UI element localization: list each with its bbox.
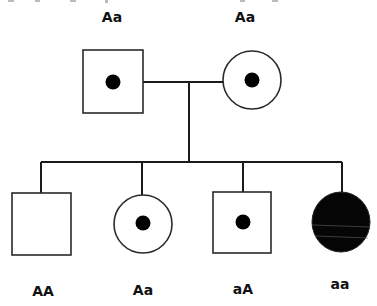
child4-genotype-label: aa: [331, 276, 350, 292]
carrier-dot-icon: [106, 75, 121, 90]
child3-genotype-label: aA: [233, 281, 253, 297]
carrier-dot-icon: [236, 215, 251, 230]
father-symbol: [83, 50, 143, 113]
child4-symbol: [312, 192, 370, 252]
child1-genotype-label: AA: [32, 283, 54, 299]
child2-symbol: [114, 195, 172, 253]
affected-female-circle-icon: [312, 192, 370, 252]
carrier-dot-icon: [136, 216, 151, 231]
male-square-icon: [12, 193, 71, 255]
top-cutoff-text: [8, 0, 278, 3]
father-genotype-label: Aa: [102, 9, 122, 25]
carrier-dot-icon: [245, 73, 260, 88]
mother-genotype-label: Aa: [235, 9, 255, 25]
child2-genotype-label: Aa: [133, 282, 153, 298]
mother-symbol: [223, 51, 281, 109]
child3-symbol: [213, 192, 271, 253]
pedigree-diagram: Aa Aa AA Aa aA aa: [0, 0, 377, 306]
child1-symbol: [12, 193, 71, 255]
